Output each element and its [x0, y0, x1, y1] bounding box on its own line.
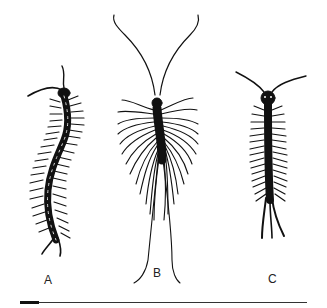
baseline-rule [20, 302, 307, 303]
specimen-c-drawing [236, 72, 306, 238]
centipede-figure [0, 0, 327, 308]
specimen-b-label: B [153, 266, 161, 280]
specimen-b-drawing [114, 15, 199, 283]
scale-bar [20, 301, 39, 304]
specimen-a-drawing [28, 66, 84, 256]
specimen-c-label: C [268, 272, 277, 286]
specimen-a-label: A [44, 273, 52, 287]
